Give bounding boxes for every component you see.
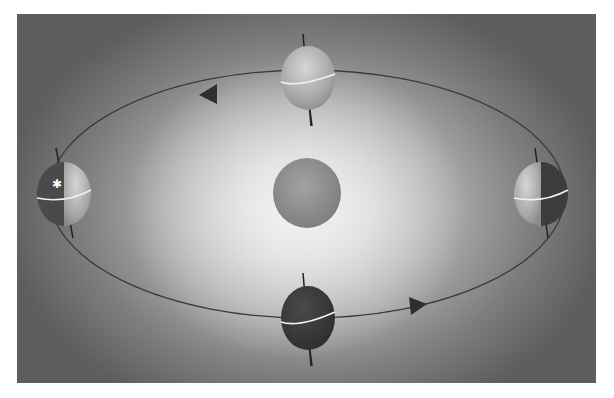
earth-globe	[281, 286, 335, 350]
earth-globe	[281, 46, 335, 110]
orbit-diagram: ✱	[17, 14, 596, 383]
earth-dark-half	[541, 162, 568, 226]
orbit-diagram-svg: ✱	[17, 14, 596, 383]
earth-lit-half	[514, 162, 541, 226]
earth-lit-half	[64, 162, 91, 226]
sun	[273, 158, 341, 228]
earth-right	[514, 148, 568, 238]
star-marker-icon: ✱	[52, 177, 62, 191]
earth-left: ✱	[37, 148, 91, 238]
earth-dark-half	[37, 162, 64, 226]
